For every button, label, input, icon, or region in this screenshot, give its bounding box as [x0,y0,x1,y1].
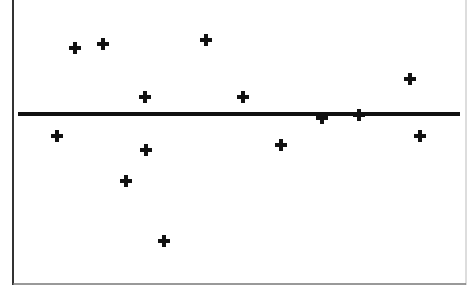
residual-scatter-plot [0,0,468,286]
plot-background [0,0,468,286]
